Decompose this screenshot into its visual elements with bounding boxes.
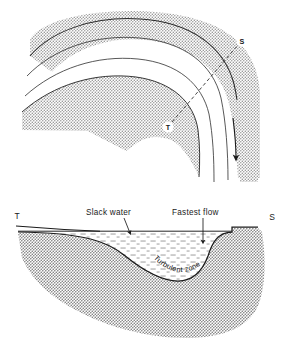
plan-marker-s-label: S [240, 37, 245, 46]
cross-section-label-s: S [269, 212, 275, 222]
meander-figure: S T T S Slack water Fastest f [0, 0, 299, 344]
cross-section-label-t: T [14, 211, 19, 221]
annotation-fastest-flow: Fastest flow [172, 208, 219, 217]
annotation-slack-water: Slack water [86, 208, 131, 217]
plan-marker-s: S [236, 35, 247, 46]
plan-marker-t: T [162, 121, 173, 132]
plan-marker-t-label: T [166, 123, 171, 132]
